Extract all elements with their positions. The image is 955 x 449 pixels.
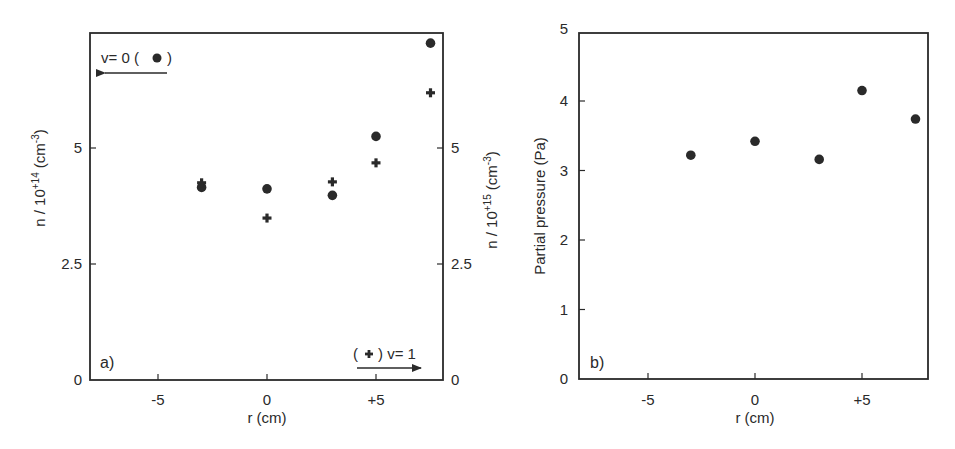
panel-b-ytick-label: 4 — [560, 92, 568, 109]
panel-a-ytick-right-label: 0 — [451, 371, 459, 388]
panel-a-xtick-label: 0 — [263, 391, 271, 408]
legend-v0-label: v= 0 ( — [101, 49, 139, 66]
data-point-circle — [426, 38, 436, 48]
panel-a-y-axis-label-right: n / 10+15 (cm-3) — [482, 151, 500, 249]
panel-b-ytick-label: 5 — [560, 20, 568, 37]
svg-text:(: ( — [353, 345, 358, 362]
panel-a-ytick-left-label: 5 — [74, 139, 82, 156]
legend-v0: v= 0 ( ) — [101, 49, 172, 73]
svg-text:): ) — [167, 49, 172, 66]
panel-b-frame — [579, 33, 928, 379]
panel-a-xtick-label: -5 — [151, 391, 164, 408]
data-point-circle — [750, 137, 760, 147]
legend-v1-plus-marker-icon — [365, 350, 373, 358]
data-point-plus — [372, 158, 381, 167]
svg-text:v= 0 (: v= 0 ( — [101, 49, 139, 66]
data-point-plus — [263, 214, 272, 223]
panel-b-data-points — [686, 86, 920, 164]
panel-b-ytick-label: 3 — [560, 162, 568, 179]
panel-b-xtick-label: -5 — [641, 391, 654, 408]
panel-b-xtick-label: +5 — [853, 391, 870, 408]
data-point-circle — [686, 150, 696, 160]
panel-b-y-axis-label: Partial pressure (Pa) — [531, 137, 548, 275]
data-point-plus — [426, 88, 435, 97]
panel-a-data-points — [197, 38, 436, 222]
panel-b-label: b) — [590, 354, 604, 371]
legend-v1: ( ) v= 1 — [353, 345, 421, 368]
panel-a-frame — [90, 33, 443, 380]
svg-text:) v= 1: ) v= 1 — [378, 345, 416, 362]
panel-a-ytick-left-label: 2.5 — [61, 255, 82, 272]
data-point-circle — [262, 184, 272, 194]
panel-a-xtick-label: +5 — [367, 391, 384, 408]
panel-b-ytick-label: 1 — [560, 301, 568, 318]
legend-v1-label: ) v= 1 — [378, 345, 416, 362]
panel-b-xtick-label: 0 — [751, 391, 759, 408]
panel-b-ytick-label: 2 — [560, 231, 568, 248]
legend-v0-circle-marker-icon — [153, 54, 162, 63]
data-point-plus — [328, 177, 337, 186]
data-point-circle — [371, 132, 381, 142]
panel-b-ytick-label: 0 — [560, 370, 568, 387]
panel-b: -5 0 +5 0 1 2 3 4 5 r (cm) Partial press… — [531, 20, 928, 426]
data-point-circle — [814, 155, 824, 165]
panel-a: -5 0 +5 0 2.5 5 0 2.5 5 r (cm) n / 10+14… — [30, 33, 500, 426]
panel-a-label: a) — [100, 354, 114, 371]
data-point-circle — [911, 114, 921, 124]
panel-a-ytick-right-label: 2.5 — [451, 255, 472, 272]
data-point-circle — [328, 191, 338, 201]
panel-a-x-axis-label: r (cm) — [247, 409, 286, 426]
panel-a-ytick-left-label: 0 — [74, 371, 82, 388]
panel-b-y-ticks: 0 1 2 3 4 5 — [560, 20, 585, 387]
panel-b-x-axis-label: r (cm) — [735, 409, 774, 426]
figure: -5 0 +5 0 2.5 5 0 2.5 5 r (cm) n / 10+14… — [0, 0, 955, 449]
data-point-circle — [857, 86, 867, 96]
panel-a-y-axis-label-left: n / 10+14 (cm-3) — [30, 129, 48, 227]
panel-a-ytick-right-label: 5 — [451, 139, 459, 156]
